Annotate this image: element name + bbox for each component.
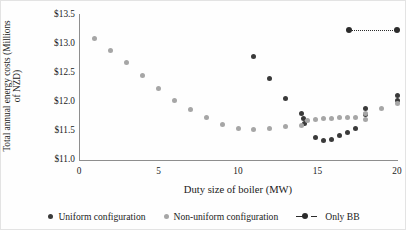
x-axis-tick-label: 10 xyxy=(223,167,253,176)
legend-item-non-uniform: Non-uniform configuration xyxy=(164,211,279,222)
data-point xyxy=(394,27,400,33)
data-point xyxy=(283,96,288,101)
data-point xyxy=(236,126,241,131)
chart-figure: Total annual energy costs (Millions of N… xyxy=(0,0,406,230)
data-point xyxy=(251,127,256,132)
data-point xyxy=(329,116,334,121)
data-point xyxy=(313,135,318,140)
data-point xyxy=(313,117,318,122)
plot-area xyxy=(79,15,397,160)
legend-item-only-bb: Only BB xyxy=(296,211,359,222)
y-axis-title: Total annual energy costs (Millions of N… xyxy=(2,0,22,181)
data-point xyxy=(329,137,334,142)
y-axis-tick-label: $11.5 xyxy=(31,126,75,135)
data-point xyxy=(363,111,368,116)
data-point xyxy=(188,107,193,112)
data-point xyxy=(395,93,400,98)
data-point xyxy=(108,48,113,53)
data-point xyxy=(305,118,310,123)
data-point xyxy=(267,76,272,81)
y-axis-tick-label: $11.0 xyxy=(31,155,75,164)
x-axis-line xyxy=(79,160,398,161)
data-point xyxy=(283,124,288,129)
legend-label-uniform: Uniform configuration xyxy=(58,211,145,222)
data-point xyxy=(321,116,326,121)
data-point xyxy=(363,117,368,122)
data-point xyxy=(220,122,225,127)
legend-label-non-uniform: Non-uniform configuration xyxy=(174,211,279,222)
data-point xyxy=(204,115,209,120)
y-axis-tick-label: $13.0 xyxy=(31,39,75,48)
data-point xyxy=(156,86,161,91)
data-point xyxy=(299,123,304,128)
legend-label-only-bb: Only BB xyxy=(325,211,359,222)
data-point xyxy=(353,115,358,120)
data-point xyxy=(92,36,97,41)
data-point xyxy=(124,60,129,65)
data-point xyxy=(337,133,342,138)
legend-item-uniform: Uniform configuration xyxy=(48,211,145,222)
data-point xyxy=(140,73,145,78)
x-axis-tick-label: 0 xyxy=(64,167,94,176)
y-axis-title-line-1: Total annual energy costs (Millions xyxy=(2,20,12,151)
data-point xyxy=(353,126,358,131)
y-axis-title-line-2: of NZD) xyxy=(12,20,23,151)
y-axis-tick-label: $12.5 xyxy=(31,68,75,77)
data-point xyxy=(395,101,400,106)
x-axis-tick-label: 5 xyxy=(144,167,174,176)
legend-marker-gray-dot-icon xyxy=(164,214,169,219)
chart-legend: Uniform configuration Non-uniform config… xyxy=(1,206,406,226)
x-axis-tick-label: 20 xyxy=(382,167,406,176)
data-point xyxy=(251,54,256,59)
data-point xyxy=(346,27,352,33)
data-point xyxy=(337,115,342,120)
y-axis-tick-label: $13.5 xyxy=(31,10,75,19)
data-point xyxy=(379,106,384,111)
y-axis-tick-label: $12.0 xyxy=(31,97,75,106)
data-point xyxy=(172,98,177,103)
data-point xyxy=(267,126,272,131)
legend-marker-dotted-line-icon xyxy=(296,213,320,220)
only-bb-dotted-line xyxy=(349,30,397,31)
legend-marker-dark-dot-icon xyxy=(48,214,53,219)
data-point xyxy=(345,115,350,120)
x-axis-tick-label: 15 xyxy=(303,167,333,176)
x-axis-title: Duty size of boiler (MW) xyxy=(79,184,397,195)
data-point xyxy=(345,130,350,135)
data-point xyxy=(321,138,326,143)
